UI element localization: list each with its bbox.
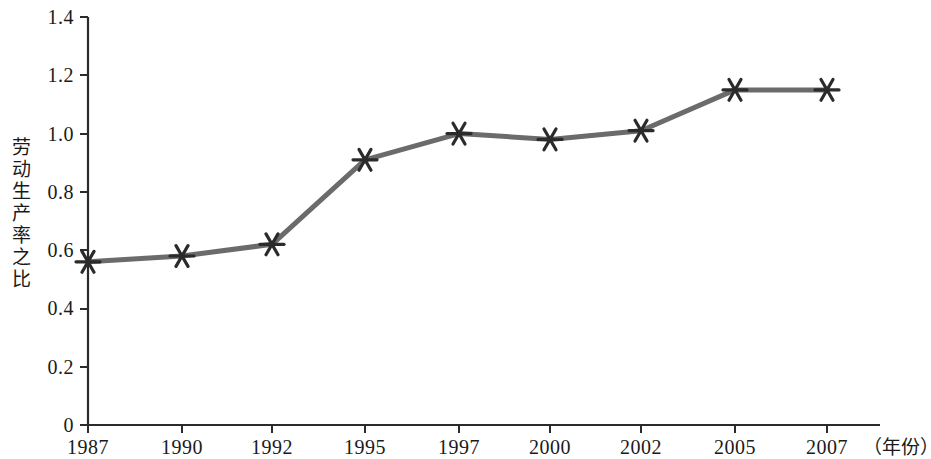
y-tick-label: 1.4	[30, 7, 74, 27]
axis-lines	[87, 17, 880, 425]
data-point-marker	[447, 123, 471, 144]
x-tick-label: 1992	[237, 437, 307, 457]
x-tick-label: 2002	[606, 437, 676, 457]
y-tick-label: 0.6	[30, 240, 74, 260]
x-tick-label: 2000	[515, 437, 585, 457]
y-tick-label: 0	[30, 415, 74, 435]
x-tick-label: 1990	[147, 437, 217, 457]
series-line-labor-productivity-ratio	[88, 90, 827, 262]
data-point-marker	[538, 129, 562, 150]
y-tick-label: 1.2	[30, 65, 74, 85]
data-point-marker	[629, 120, 653, 141]
series-markers	[76, 80, 839, 273]
x-tick-label: 1997	[424, 437, 494, 457]
x-tick-label: 2007	[792, 437, 862, 457]
x-tick-label: 1987	[53, 437, 123, 457]
data-point-marker	[170, 246, 194, 267]
y-tick-label: 1.0	[30, 124, 74, 144]
x-tick-label: 2005	[700, 437, 770, 457]
x-axis-ticks	[88, 425, 827, 433]
x-axis-unit-label: （年份）	[863, 437, 931, 457]
y-tick-label: 0.8	[30, 182, 74, 202]
x-tick-label: 1995	[330, 437, 400, 457]
y-tick-label: 0.2	[30, 357, 74, 377]
y-axis-ticks	[80, 17, 88, 425]
data-point-marker	[815, 80, 839, 101]
y-tick-label: 0.4	[30, 298, 74, 318]
data-point-marker	[723, 80, 747, 101]
